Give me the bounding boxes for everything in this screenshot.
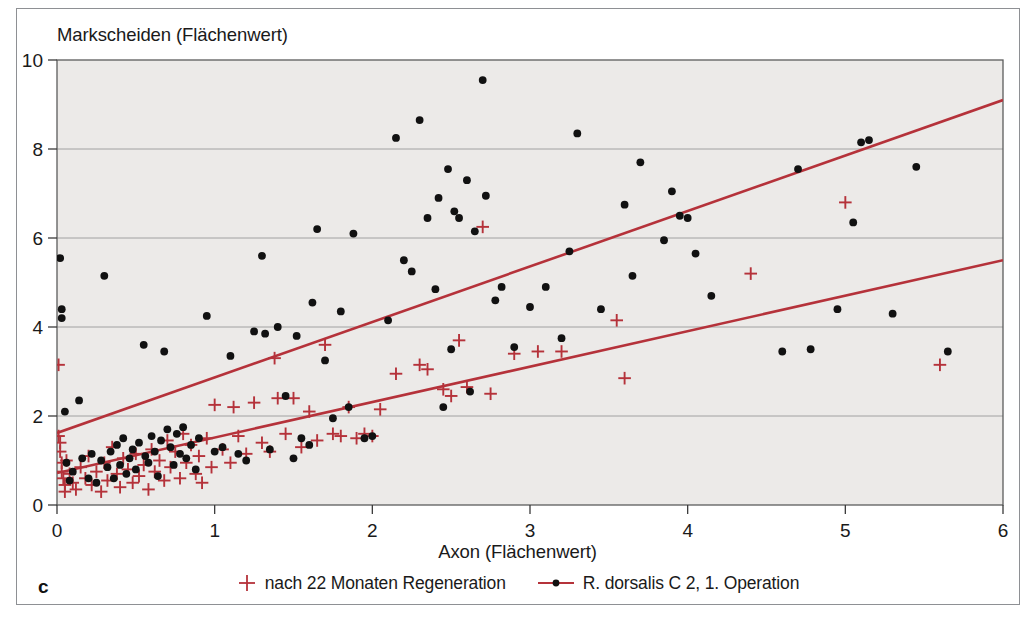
- data-point-dot: [305, 441, 313, 449]
- data-point-dot: [807, 345, 815, 353]
- data-point-dot: [424, 214, 432, 222]
- data-point-dot: [100, 272, 108, 280]
- legend-entry-regeneration: nach 22 Monaten Regeneration: [236, 572, 506, 594]
- data-point-dot: [309, 299, 317, 307]
- figure-container: Markscheiden (Flächenwert) 0123456024681…: [0, 0, 1035, 635]
- data-point-dot: [219, 443, 227, 451]
- data-point-dot: [621, 201, 629, 209]
- y-tick-label: 0: [32, 495, 43, 516]
- data-point-dot: [182, 454, 190, 462]
- data-point-dot: [192, 466, 200, 474]
- x-tick-label: 1: [209, 520, 220, 541]
- line-with-dot-icon: [536, 572, 576, 594]
- data-point-dot: [104, 463, 112, 471]
- data-point-dot: [479, 76, 487, 84]
- data-point-dot: [455, 214, 463, 222]
- data-point-dot: [676, 212, 684, 220]
- data-point-dot: [439, 403, 447, 411]
- data-point-dot: [482, 192, 490, 200]
- data-point-dot: [148, 432, 156, 440]
- data-point-dot: [368, 432, 376, 440]
- data-point-dot: [135, 439, 143, 447]
- data-point-dot: [361, 434, 369, 442]
- data-point-dot: [293, 332, 301, 340]
- x-tick-label: 6: [998, 520, 1009, 541]
- data-point-dot: [510, 343, 518, 351]
- data-point-dot: [392, 134, 400, 142]
- data-point-dot: [447, 345, 455, 353]
- data-point-dot: [857, 138, 865, 146]
- y-tick-label: 10: [22, 50, 43, 71]
- data-point-dot: [69, 468, 77, 476]
- data-point-dot: [141, 452, 149, 460]
- data-point-dot: [227, 352, 235, 360]
- x-axis-title: Axon (Flächenwert): [0, 541, 1035, 563]
- data-point-dot: [491, 296, 499, 304]
- data-point-dot: [167, 443, 175, 451]
- data-point-dot: [498, 283, 506, 291]
- data-point-dot: [849, 219, 857, 227]
- data-point-dot: [329, 414, 337, 422]
- data-point-dot: [88, 450, 96, 458]
- data-point-dot: [170, 461, 178, 469]
- data-point-dot: [313, 225, 321, 233]
- data-point-dot: [250, 328, 258, 336]
- scatter-plot: 01234560246810: [0, 0, 1035, 635]
- data-point-dot: [558, 334, 566, 342]
- data-point-dot: [471, 227, 479, 235]
- data-point-dot: [597, 305, 605, 313]
- data-point-dot: [274, 323, 282, 331]
- data-point-dot: [157, 437, 165, 445]
- x-tick-label: 4: [682, 520, 693, 541]
- data-point-dot: [151, 448, 159, 456]
- data-point-dot: [78, 454, 86, 462]
- x-tick-label: 5: [840, 520, 851, 541]
- legend: nach 22 Monaten Regeneration R. dorsalis…: [0, 572, 1035, 594]
- data-point-dot: [692, 250, 700, 258]
- data-point-dot: [778, 348, 786, 356]
- data-point-dot: [707, 292, 715, 300]
- data-point-dot: [203, 312, 211, 320]
- data-point-dot: [400, 256, 408, 264]
- data-point-dot: [75, 397, 83, 405]
- data-point-dot: [113, 441, 121, 449]
- data-point-dot: [116, 461, 124, 469]
- y-tick-label: 8: [32, 139, 43, 160]
- data-point-dot: [154, 472, 162, 480]
- data-point-dot: [163, 425, 171, 433]
- data-point-dot: [290, 454, 298, 462]
- data-point-dot: [258, 252, 266, 260]
- data-point-dot: [636, 158, 644, 166]
- data-point-dot: [660, 236, 668, 244]
- plus-icon: [236, 572, 258, 594]
- data-point-dot: [140, 341, 148, 349]
- data-point-dot: [345, 403, 353, 411]
- data-point-dot: [384, 316, 392, 324]
- data-point-dot: [93, 479, 101, 487]
- data-point-dot: [889, 310, 897, 318]
- data-point-dot: [684, 214, 692, 222]
- data-point-dot: [66, 477, 74, 485]
- data-point-dot: [466, 388, 474, 396]
- legend-label-regeneration: nach 22 Monaten Regeneration: [265, 573, 506, 594]
- x-tick-label: 2: [367, 520, 378, 541]
- data-point-dot: [122, 470, 130, 478]
- data-point-dot: [261, 330, 269, 338]
- data-point-dot: [668, 187, 676, 195]
- data-point-dot: [297, 434, 305, 442]
- data-point-dot: [160, 348, 168, 356]
- data-point-dot: [234, 450, 242, 458]
- data-point-dot: [266, 445, 274, 453]
- data-point-dot: [129, 445, 137, 453]
- data-point-dot: [63, 459, 71, 467]
- data-point-dot: [435, 194, 443, 202]
- data-point-dot: [56, 254, 64, 262]
- data-point-dot: [126, 454, 134, 462]
- data-point-dot: [85, 474, 93, 482]
- data-point-dot: [187, 441, 195, 449]
- data-point-dot: [629, 272, 637, 280]
- data-point-dot: [195, 434, 203, 442]
- data-point-dot: [573, 130, 581, 138]
- data-point-dot: [416, 116, 424, 124]
- data-point-dot: [944, 348, 952, 356]
